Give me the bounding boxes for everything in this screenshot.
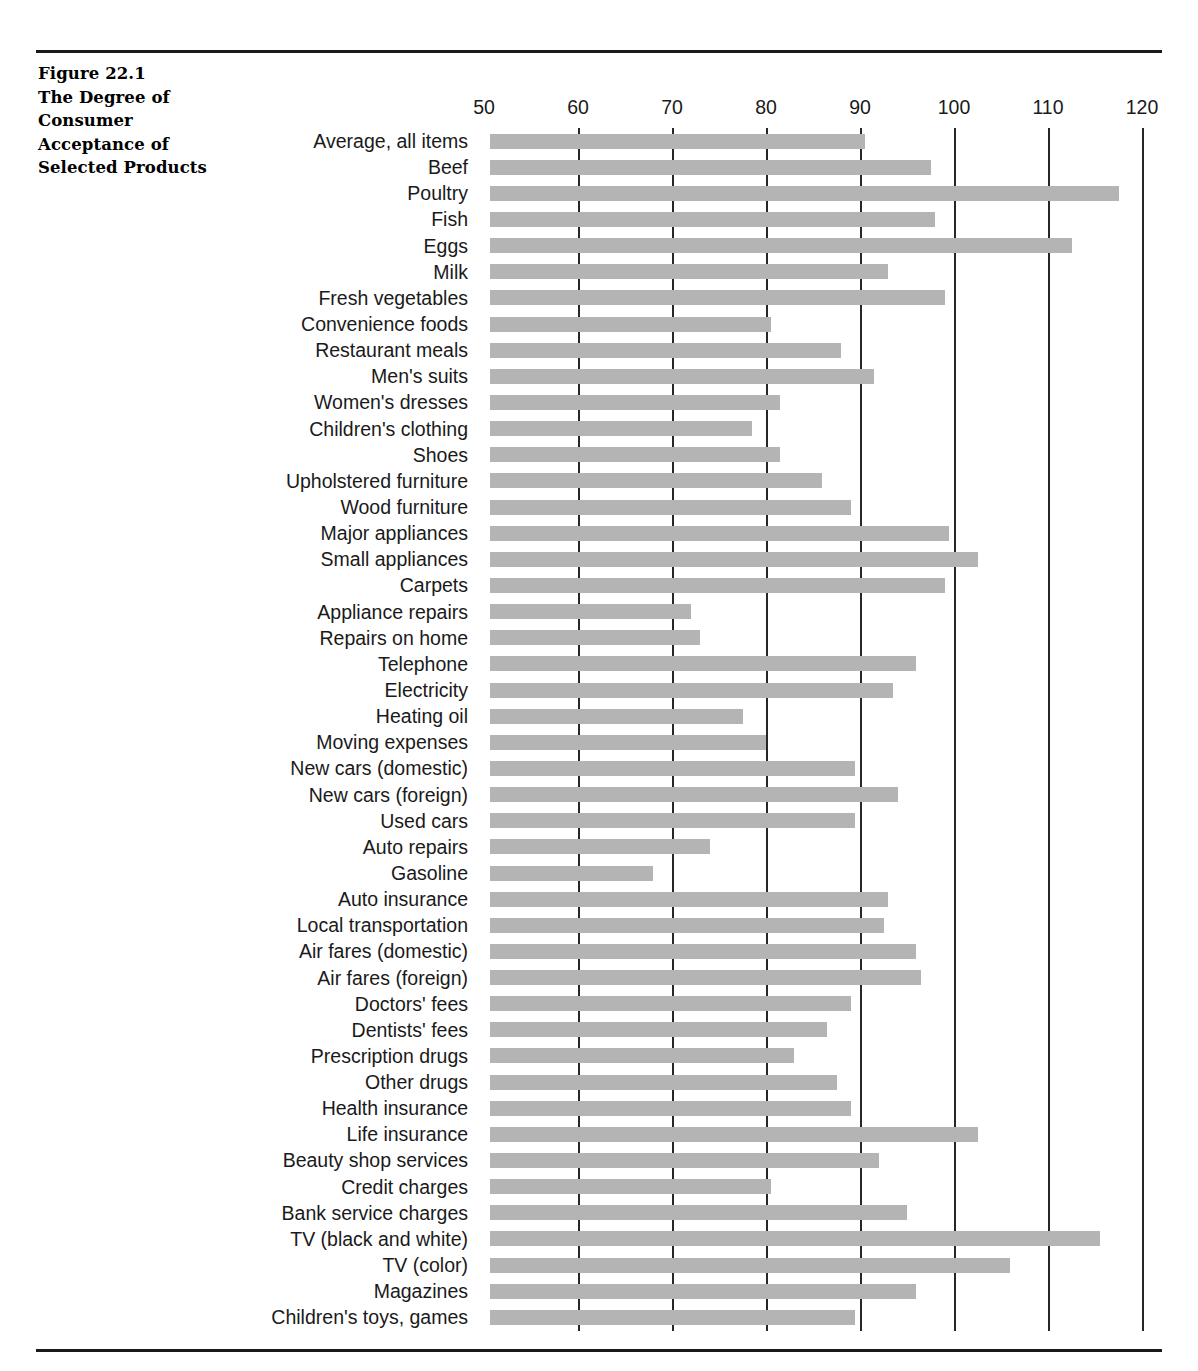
category-label: Doctors' fees xyxy=(140,991,480,1017)
bar-row xyxy=(484,677,1142,703)
category-label: Upholstered furniture xyxy=(140,468,480,494)
bar xyxy=(490,1258,1010,1273)
bar xyxy=(490,1022,827,1037)
category-label: Health insurance xyxy=(140,1095,480,1121)
bar-row xyxy=(484,1017,1142,1043)
bar xyxy=(490,630,700,645)
bar-row xyxy=(484,912,1142,938)
bar-row xyxy=(484,755,1142,781)
bar-row xyxy=(484,834,1142,860)
category-label: Credit charges xyxy=(140,1174,480,1200)
category-label: Auto repairs xyxy=(140,834,480,860)
category-label: Average, all items xyxy=(140,128,480,154)
category-label: Bank service charges xyxy=(140,1200,480,1226)
bar xyxy=(490,160,931,175)
bar-row xyxy=(484,938,1142,964)
bar-row xyxy=(484,1043,1142,1069)
bar-row xyxy=(484,389,1142,415)
category-label: Auto insurance xyxy=(140,886,480,912)
bar-series xyxy=(484,128,1142,1330)
bar-row xyxy=(484,991,1142,1017)
x-tick-label-110: 110 xyxy=(1032,96,1063,119)
category-label: Magazines xyxy=(140,1278,480,1304)
bar-row xyxy=(484,965,1142,991)
bar xyxy=(490,343,841,358)
category-label: Used cars xyxy=(140,808,480,834)
bar-row xyxy=(484,703,1142,729)
bar-row xyxy=(484,1200,1142,1226)
bar xyxy=(490,1310,855,1325)
gridline-120 xyxy=(1142,128,1144,1331)
bar-row xyxy=(484,259,1142,285)
category-label: Prescription drugs xyxy=(140,1043,480,1069)
bar xyxy=(490,317,771,332)
category-label: Convenience foods xyxy=(140,311,480,337)
plot-area xyxy=(484,128,1142,1331)
bar xyxy=(490,813,855,828)
category-label: Children's clothing xyxy=(140,416,480,442)
x-tick-label-120: 120 xyxy=(1126,96,1159,119)
category-label: Eggs xyxy=(140,233,480,259)
bar-row xyxy=(484,860,1142,886)
category-label: Wood furniture xyxy=(140,494,480,520)
category-label: New cars (domestic) xyxy=(140,755,480,781)
category-label: Fresh vegetables xyxy=(140,285,480,311)
bar-row xyxy=(484,494,1142,520)
bar-chart: Average, all itemsBeefPoultryFishEggsMil… xyxy=(0,0,1198,1371)
bar xyxy=(490,1284,916,1299)
bar xyxy=(490,761,855,776)
bar-row xyxy=(484,1121,1142,1147)
category-label: Milk xyxy=(140,259,480,285)
bar-row xyxy=(484,729,1142,755)
category-label: Small appliances xyxy=(140,546,480,572)
category-label: Air fares (domestic) xyxy=(140,938,480,964)
bar-row xyxy=(484,651,1142,677)
x-axis-tick-labels: 5060708090100110120 xyxy=(484,96,1142,126)
category-label-column: Average, all itemsBeefPoultryFishEggsMil… xyxy=(140,128,480,1330)
figure-container: Figure 22.1The Degree ofConsumerAcceptan… xyxy=(0,0,1198,1371)
bar-row xyxy=(484,1252,1142,1278)
bar-row xyxy=(484,206,1142,232)
bar-row xyxy=(484,363,1142,389)
bar xyxy=(490,1153,879,1168)
bar-row xyxy=(484,233,1142,259)
x-tick-label-80: 80 xyxy=(755,96,777,119)
bar xyxy=(490,683,893,698)
x-tick-label-90: 90 xyxy=(849,96,871,119)
x-tick-label-100: 100 xyxy=(938,96,971,119)
category-label: Air fares (foreign) xyxy=(140,965,480,991)
bar xyxy=(490,1231,1100,1246)
bar xyxy=(490,787,898,802)
bar xyxy=(490,500,851,515)
bar xyxy=(490,447,780,462)
category-label: TV (color) xyxy=(140,1252,480,1278)
category-label: Telephone xyxy=(140,651,480,677)
bar xyxy=(490,709,743,724)
bar xyxy=(490,212,935,227)
category-label: New cars (foreign) xyxy=(140,782,480,808)
category-label: Carpets xyxy=(140,572,480,598)
category-label: Shoes xyxy=(140,442,480,468)
bar-row xyxy=(484,1147,1142,1173)
bar-row xyxy=(484,782,1142,808)
category-label: Poultry xyxy=(140,180,480,206)
bar xyxy=(490,552,978,567)
bar-row xyxy=(484,311,1142,337)
bar xyxy=(490,1101,851,1116)
bar-row xyxy=(484,416,1142,442)
bar xyxy=(490,656,916,671)
bar xyxy=(490,473,822,488)
bar-row xyxy=(484,886,1142,912)
category-label: Women's dresses xyxy=(140,389,480,415)
bar-row xyxy=(484,1174,1142,1200)
category-label: Dentists' fees xyxy=(140,1017,480,1043)
category-label: Men's suits xyxy=(140,363,480,389)
bar xyxy=(490,526,949,541)
bar xyxy=(490,735,766,750)
category-label: Beauty shop services xyxy=(140,1147,480,1173)
bar xyxy=(490,1127,978,1142)
bar-row xyxy=(484,468,1142,494)
x-tick-label-50: 50 xyxy=(473,96,495,119)
category-label: Appliance repairs xyxy=(140,599,480,625)
category-label: Moving expenses xyxy=(140,729,480,755)
